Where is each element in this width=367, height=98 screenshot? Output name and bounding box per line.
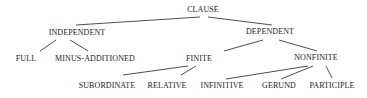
node-nonfinite: NONFINITE <box>294 53 338 63</box>
node-infinitive: INFINITIVE <box>200 81 243 91</box>
node-participle: PARTICIPLE <box>309 81 354 91</box>
edge-clause-independent <box>76 17 200 25</box>
clause-tree-diagram: CLAUSE INDEPENDENT DEPENDENT FULL MINUS-… <box>0 0 367 98</box>
edge-nonfinite-infinitive <box>226 66 308 79</box>
edge-dependent-nonfinite <box>279 40 317 51</box>
edge-dependent-finite <box>224 40 263 51</box>
node-relative: RELATIVE <box>147 81 186 91</box>
node-subordinate: SUBORDINATE <box>79 81 136 91</box>
node-finite: FINITE <box>186 54 212 64</box>
node-clause: CLAUSE <box>187 5 219 15</box>
node-full: FULL <box>16 54 36 64</box>
edge-finite-subordinate <box>123 66 188 75</box>
edge-nonfinite-participle <box>326 66 332 78</box>
edge-independent-minus-additioned <box>70 40 88 51</box>
node-dependent: DEPENDENT <box>246 27 294 37</box>
node-independent: INDEPENDENT <box>49 28 106 38</box>
node-gerund: GERUND <box>262 81 296 91</box>
edge-independent-full <box>40 40 56 51</box>
edge-clause-dependent <box>208 17 272 25</box>
node-minus-additioned: MINUS-ADDITIONED <box>55 54 135 64</box>
edge-finite-relative <box>181 66 196 75</box>
